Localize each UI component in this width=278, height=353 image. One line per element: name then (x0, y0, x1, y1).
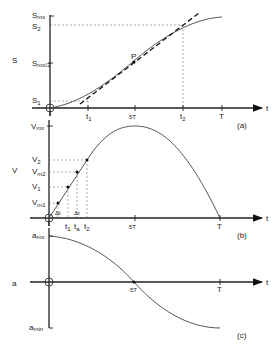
b-y-label: V (12, 166, 18, 175)
svg-text:Vm1: Vm1 (32, 198, 46, 208)
panel-a: S Smx S2 Smx/2 S1 t1 ·5T t2 T t P (a) (12, 11, 269, 130)
svg-text:Vm2: Vm2 (32, 167, 46, 177)
svg-text:amin: amin (29, 323, 43, 332)
svg-text:·5T: ·5T (127, 114, 136, 120)
c-y-label: a (12, 279, 17, 288)
svg-text:Δt: Δt (74, 210, 80, 216)
svg-text:t: t (266, 214, 269, 223)
svg-text:t: t (266, 104, 269, 113)
p-label: P (131, 52, 136, 61)
svg-text:t: t (266, 278, 269, 287)
svg-text:T: T (217, 285, 222, 294)
s-curve (50, 17, 222, 108)
svg-text:amx: amx (32, 231, 44, 240)
svg-text:T: T (219, 112, 224, 121)
panel-b-tag: (b) (237, 231, 247, 240)
svg-text:Vmx: Vmx (31, 122, 44, 131)
svg-text:t2: t2 (84, 222, 90, 232)
svg-text:t2: t2 (180, 112, 186, 122)
svg-text:·5T: ·5T (127, 224, 136, 230)
svg-text:T: T (217, 222, 222, 231)
svg-text:Δt: Δt (55, 210, 61, 216)
motion-diagram: S Smx S2 Smx/2 S1 t1 ·5T t2 T t P (a) (0, 0, 278, 353)
svg-text:S1: S1 (32, 96, 41, 106)
svg-text:Smx/2: Smx/2 (32, 59, 51, 68)
svg-text:·5T: ·5T (128, 287, 137, 293)
panel-b: V Vmx V2 Vm2 V1 Vm1 Δt Δt t1 ta t2 ·5T T… (12, 120, 269, 240)
panel-c: a amx amin ·5T T t (c) (12, 228, 269, 340)
svg-text:t1: t1 (86, 112, 92, 122)
svg-text:Smx: Smx (32, 11, 45, 20)
tangent-line (80, 13, 199, 104)
panel-c-tag: (c) (237, 331, 247, 340)
panel-a-tag: (a) (237, 121, 247, 130)
svg-text:ta: ta (74, 222, 80, 232)
svg-text:S2: S2 (32, 22, 41, 32)
a-y-label: S (12, 56, 17, 65)
svg-text:V2: V2 (32, 155, 41, 165)
svg-text:t1: t1 (65, 222, 71, 232)
svg-text:V1: V1 (32, 182, 41, 192)
